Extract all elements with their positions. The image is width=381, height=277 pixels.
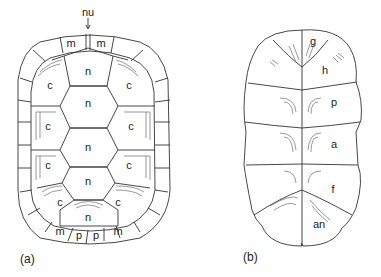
label-femoral: f [331,183,335,195]
label-pygal: p [76,229,82,241]
label-pygal: p [93,229,99,241]
label-costal: c [126,79,132,91]
carapace-outline [18,35,170,244]
plastron-panel: g h p a f an (b) [243,30,361,264]
label-marginal: m [96,37,105,49]
label-nuchal: nu [82,6,94,18]
label-costal: c [115,196,121,208]
label-costal: c [128,120,134,132]
label-costal: c [57,196,63,208]
label-costal: c [47,79,53,91]
label-neural: n [85,141,91,153]
label-neural: n [85,175,91,187]
label-gular: g [310,35,316,47]
plastron-outline [244,30,361,246]
label-anal: an [313,218,325,230]
turtle-shell-diagram: nu m m n n n n n c c c c c c c c m p p m… [0,0,381,277]
gular-scute [273,40,328,67]
caption-b: (b) [243,250,258,264]
label-marginal: m [66,37,75,49]
label-marginal: m [55,225,64,237]
label-humeral: h [322,64,328,76]
label-costal: c [126,159,132,171]
label-pectoral: p [331,96,337,108]
label-neural: n [85,97,91,109]
label-neural: n [85,211,91,223]
label-costal: c [45,120,51,132]
carapace-panel: nu m m n n n n n c c c c c c c c m p p m… [18,6,170,266]
label-abdominal: a [331,138,338,150]
label-marginal: m [113,225,122,237]
caption-a: (a) [20,252,35,266]
label-costal: c [45,159,51,171]
label-neural: n [85,65,91,77]
